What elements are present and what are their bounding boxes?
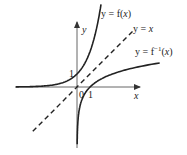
y-tick-label-1: 1 bbox=[69, 68, 74, 79]
label-f: y = f(x) bbox=[101, 8, 131, 20]
x-axis-label: x bbox=[133, 90, 139, 101]
curve-identity-dashed bbox=[33, 31, 133, 131]
label-f-inverse: y = f−1(x) bbox=[135, 45, 173, 58]
inverse-function-diagram: y x 0 1 1 y = f(x) y = x y = f−1(x) bbox=[0, 0, 187, 155]
curve-f-exponential bbox=[16, 4, 101, 87]
x-tick-label-1: 1 bbox=[88, 89, 93, 100]
y-axis-label: y bbox=[81, 24, 87, 35]
origin-label: 0 bbox=[79, 89, 84, 100]
label-identity: y = x bbox=[133, 23, 154, 34]
